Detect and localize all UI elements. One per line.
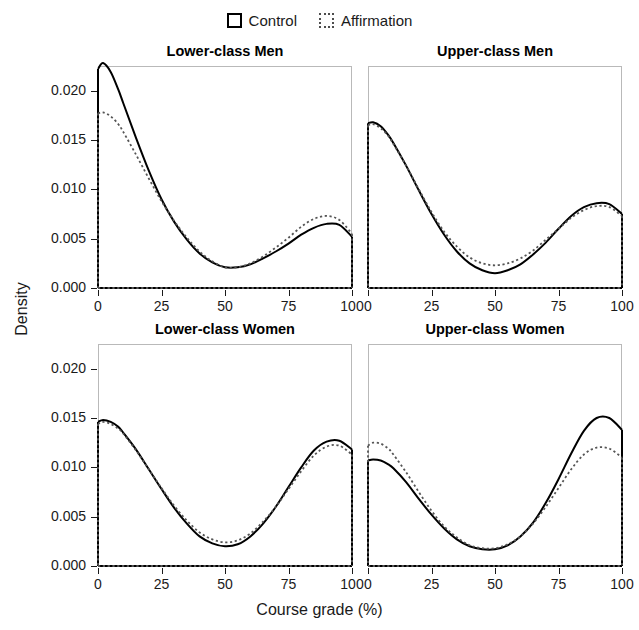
x-tick-label: 25 xyxy=(137,298,187,314)
x-tick-mark xyxy=(225,290,226,296)
x-tick-label: 0 xyxy=(343,298,393,314)
y-tick-label: 0.010 xyxy=(18,458,86,474)
x-tick-mark xyxy=(162,568,163,574)
x-tick-mark xyxy=(622,290,623,296)
x-tick-label: 25 xyxy=(407,576,457,592)
y-tick-mark xyxy=(91,467,97,468)
x-tick-mark xyxy=(622,568,623,574)
x-tick-label: 50 xyxy=(200,576,250,592)
x-tick-mark xyxy=(495,290,496,296)
y-tick-mark xyxy=(91,239,97,240)
x-tick-label: 0 xyxy=(73,576,123,592)
x-tick-label: 100 xyxy=(597,298,639,314)
y-tick-label: 0.005 xyxy=(18,508,86,524)
x-tick-mark xyxy=(432,290,433,296)
x-tick-label: 75 xyxy=(264,576,314,592)
y-axis-title: Density xyxy=(13,259,31,359)
x-tick-mark xyxy=(368,290,369,296)
x-tick-label: 75 xyxy=(534,576,584,592)
x-tick-mark xyxy=(559,568,560,574)
x-tick-mark xyxy=(352,568,353,574)
x-tick-label: 50 xyxy=(470,298,520,314)
x-tick-label: 75 xyxy=(534,298,584,314)
x-tick-label: 75 xyxy=(264,298,314,314)
x-tick-mark xyxy=(98,290,99,296)
y-tick-mark xyxy=(91,91,97,92)
x-tick-label: 0 xyxy=(343,576,393,592)
y-tick-label: 0.010 xyxy=(18,180,86,196)
x-tick-mark xyxy=(289,568,290,574)
x-tick-label: 50 xyxy=(470,576,520,592)
x-tick-label: 50 xyxy=(200,298,250,314)
density-curves xyxy=(0,0,639,630)
y-tick-label: 0.020 xyxy=(18,82,86,98)
x-tick-mark xyxy=(162,290,163,296)
x-tick-mark xyxy=(495,568,496,574)
y-tick-label: 0.020 xyxy=(18,360,86,376)
y-tick-label: 0.005 xyxy=(18,230,86,246)
x-tick-mark xyxy=(432,568,433,574)
x-tick-mark xyxy=(368,568,369,574)
x-tick-mark xyxy=(559,290,560,296)
density-figure: Control Affirmation Lower-class Men Uppe… xyxy=(0,0,639,630)
x-tick-mark xyxy=(98,568,99,574)
y-tick-mark xyxy=(91,369,97,370)
y-tick-label: 0.015 xyxy=(18,409,86,425)
y-tick-mark xyxy=(91,517,97,518)
x-tick-mark xyxy=(289,290,290,296)
x-tick-label: 25 xyxy=(407,298,457,314)
y-tick-label: 0.000 xyxy=(18,557,86,573)
y-tick-mark xyxy=(91,288,97,289)
x-axis-title: Course grade (%) xyxy=(0,601,639,619)
y-tick-mark xyxy=(91,566,97,567)
x-tick-label: 0 xyxy=(73,298,123,314)
y-tick-mark xyxy=(91,189,97,190)
x-tick-label: 25 xyxy=(137,576,187,592)
y-tick-mark xyxy=(91,140,97,141)
y-tick-label: 0.015 xyxy=(18,131,86,147)
y-tick-mark xyxy=(91,418,97,419)
x-tick-mark xyxy=(225,568,226,574)
x-tick-label: 100 xyxy=(597,576,639,592)
x-tick-mark xyxy=(352,290,353,296)
